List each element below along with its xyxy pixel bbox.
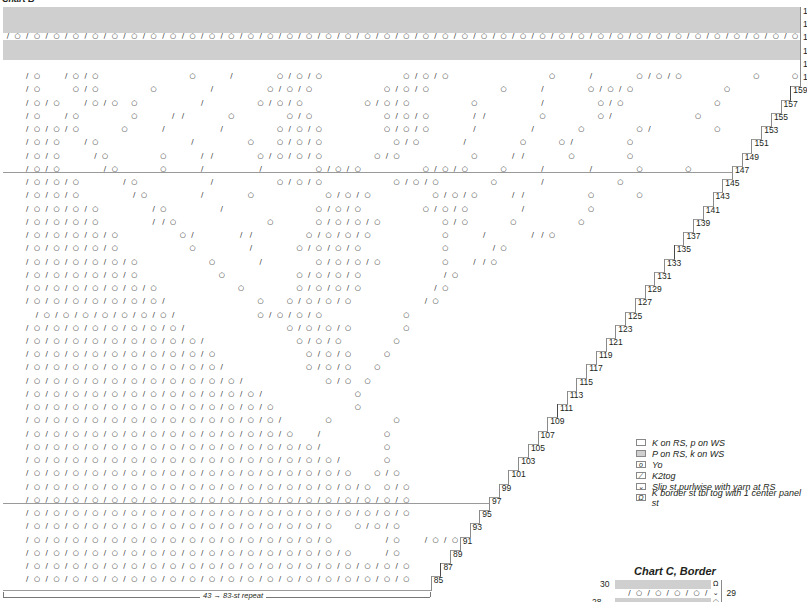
k2tog-icon: ∕ [197, 338, 207, 345]
yo-icon: ○ [246, 391, 256, 398]
yo-icon: ○ [32, 338, 42, 345]
k2tog-icon: ∕ [304, 139, 314, 146]
k2tog-icon: ∕ [81, 537, 91, 544]
yo-icon: ○ [363, 576, 373, 583]
k2tog-icon: ∕ [100, 298, 110, 305]
legend-label: K on RS, p on WS [652, 438, 725, 448]
yo-icon: ○ [751, 73, 761, 80]
row-number-label: 159 [793, 85, 807, 95]
yo-icon: ○ [489, 179, 499, 186]
repeat-bracket-tick [430, 592, 431, 597]
yo-icon: ○ [295, 312, 305, 319]
yo-icon: ○ [295, 100, 305, 107]
k2tog-icon: ∕ [139, 444, 149, 451]
yo-icon: ○ [392, 417, 402, 424]
legend-item: K on RS, p on WS [636, 437, 807, 448]
yo-icon: ○ [52, 259, 62, 266]
yo-icon: ○ [246, 139, 256, 146]
k2tog-icon: ∕ [236, 457, 246, 464]
yo-icon: ○ [265, 576, 275, 583]
k2tog-icon: ∕ [120, 272, 130, 279]
k2tog-icon: ∕ [42, 272, 52, 279]
legend-item: ∕K2tog [636, 470, 807, 481]
yo-icon: ○ [333, 206, 343, 213]
k2tog-icon: ∕ [207, 86, 217, 93]
k2tog-icon: ∕ [100, 470, 110, 477]
k2tog-icon: ∕ [81, 550, 91, 557]
yo-icon: ○ [168, 537, 178, 544]
row-number-label: 89 [453, 549, 462, 559]
k2tog-icon: ∕ [314, 33, 324, 40]
k2tog-icon: ∕ [625, 33, 635, 40]
k2tog-icon: ∕ [343, 245, 353, 252]
k2tog-icon: ∕ [42, 537, 52, 544]
k2tog-icon: ∕ [100, 563, 110, 570]
k2tog-icon: ∕ [470, 126, 480, 133]
k2tog-icon: ∕ [314, 325, 324, 332]
k2tog-icon: ∕ [314, 298, 324, 305]
yo-icon: ○ [110, 298, 120, 305]
k2tog-icon: ∕ [411, 113, 421, 120]
yo-icon: ○ [129, 404, 139, 411]
k2tog-icon: ∕ [100, 417, 110, 424]
row-number-label: 133 [667, 258, 681, 268]
yo-icon: ○ [625, 153, 635, 160]
row-number-label: 169 [803, 19, 807, 29]
k2tog-icon: ∕ [314, 444, 324, 451]
yo-icon: ○ [265, 497, 275, 504]
yo-icon: ○ [402, 484, 412, 491]
yo-icon: ○ [90, 351, 100, 358]
yo-icon: ○ [285, 325, 295, 332]
k2tog-icon: ∕ [372, 100, 382, 107]
yo-icon: ○ [615, 100, 625, 107]
k2tog-icon: ∕ [42, 100, 52, 107]
row-number-label: 151 [754, 138, 768, 148]
k2tog-icon: ∕ [304, 338, 314, 345]
k2tog-icon: ∕ [120, 325, 130, 332]
k2tog-icon: ∕ [61, 510, 71, 517]
yo-icon: ○ [149, 510, 159, 517]
k2tog-icon: ∕ [22, 484, 32, 491]
k2tog-icon: ∕ [207, 179, 217, 186]
yo-icon: ○ [470, 192, 480, 199]
yo-icon: ○ [392, 139, 402, 146]
k2tog-icon: ∕ [314, 351, 324, 358]
yo-icon: ○ [129, 510, 139, 517]
yo-icon: ○ [71, 126, 81, 133]
k2tog-icon: ∕ [314, 431, 324, 438]
k2tog-icon: ∕ [636, 472, 646, 479]
k2tog-icon: ∕ [22, 206, 32, 213]
yo-icon: ○ [402, 86, 412, 93]
k2tog-icon: ∕ [236, 470, 246, 477]
yo-icon: ○ [402, 113, 412, 120]
k2tog-icon: ∕ [120, 378, 130, 385]
yo-icon: ○ [188, 417, 198, 424]
yo-icon: ○ [52, 510, 62, 517]
k2tog-icon: ∕ [256, 576, 266, 583]
yo-icon: ○ [246, 576, 256, 583]
yo-icon: ○ [207, 33, 217, 40]
yo-icon: ○ [32, 444, 42, 451]
yo-icon: ○ [110, 325, 120, 332]
k2tog-icon: ∕ [333, 378, 343, 385]
k2tog-icon: ∕ [120, 417, 130, 424]
k2tog-icon: ∕ [100, 33, 110, 40]
yo-icon: ○ [547, 232, 557, 239]
yo-icon: ○ [576, 126, 586, 133]
yo-icon: ○ [324, 537, 334, 544]
k2tog-icon: ∕ [178, 457, 188, 464]
yo-icon: ○ [372, 523, 382, 530]
yo-icon: ○ [52, 100, 62, 107]
k2tog-icon: ∕ [159, 351, 169, 358]
k2tog-icon: ∕ [81, 325, 91, 332]
k2tog-icon: ∕ [479, 232, 489, 239]
row-number-label: 95 [482, 509, 491, 519]
yo-icon: ○ [188, 484, 198, 491]
k2tog-icon: ∕ [275, 431, 285, 438]
k2tog-icon: ∕ [314, 550, 324, 557]
yo-icon: ○ [168, 470, 178, 477]
yo-icon: ○ [265, 523, 275, 530]
k2tog-icon: ∕ [353, 563, 363, 570]
k2tog-icon: ∕ [197, 431, 207, 438]
yo-icon: ○ [168, 219, 178, 226]
